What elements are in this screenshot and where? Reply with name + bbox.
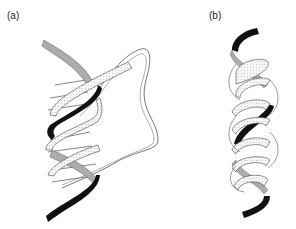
light-strand-lower [48, 145, 100, 176]
figure-canvas [0, 0, 296, 229]
helix-a [42, 40, 158, 222]
helix-b [229, 28, 278, 218]
black-strand-top [232, 28, 259, 52]
gray-strand-upper [42, 40, 92, 86]
black-strand-bottom [242, 196, 270, 218]
